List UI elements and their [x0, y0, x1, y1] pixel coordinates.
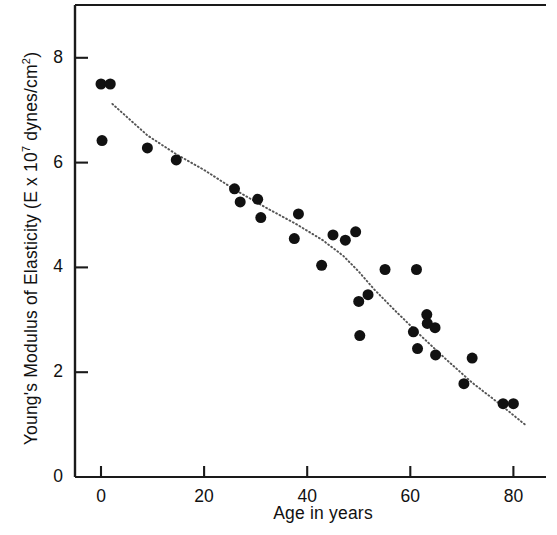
data-point — [235, 196, 246, 207]
data-point — [252, 194, 263, 205]
data-point — [467, 353, 478, 364]
data-point — [340, 235, 351, 246]
exponent-7: 7 — [20, 146, 32, 152]
data-point — [412, 343, 423, 354]
data-point — [430, 322, 441, 333]
data-point — [97, 135, 108, 146]
x-axis-title: Age in years — [100, 503, 546, 524]
data-point — [350, 226, 361, 237]
data-point — [171, 154, 182, 165]
data-point — [508, 398, 519, 409]
data-points — [96, 79, 519, 410]
data-point — [380, 264, 391, 275]
axes-group — [75, 5, 546, 477]
axis-ticks — [75, 58, 513, 477]
data-point — [105, 79, 116, 90]
y-axis-title: Young's Modulus of Elasticity (E x 107 d… — [21, 14, 42, 484]
data-point — [363, 289, 374, 300]
scatter-plot — [0, 0, 557, 535]
data-point — [289, 233, 300, 244]
data-point — [142, 142, 153, 153]
exponent-2: 2 — [20, 58, 32, 64]
data-point — [411, 264, 422, 275]
data-point — [408, 326, 419, 337]
data-point — [354, 330, 365, 341]
data-point — [255, 212, 266, 223]
data-point — [229, 183, 240, 194]
data-point — [353, 296, 364, 307]
figure-container: 02468 020406080 Young's Modulus of Elast… — [0, 0, 557, 535]
data-point — [498, 398, 509, 409]
data-point — [293, 208, 304, 219]
data-point — [458, 378, 469, 389]
data-point — [316, 260, 327, 271]
data-point — [327, 229, 338, 240]
data-point — [430, 349, 441, 360]
